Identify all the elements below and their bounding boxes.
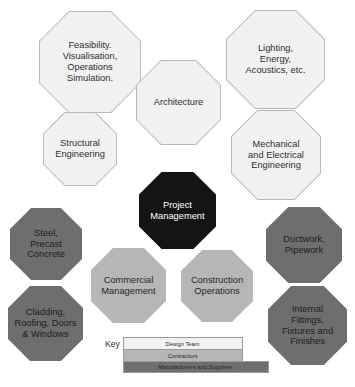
- key-legend: Key Design Team Contractors Manufacturer…: [105, 337, 269, 373]
- octagon-mechanical-electrical[interactable]: Mechanical and Electrical Engineering: [232, 111, 320, 199]
- key-row-design-team[interactable]: Design Team: [123, 337, 243, 349]
- key-row-design-team-label: Design Team: [166, 341, 200, 347]
- octagon-project-management-label: Project Management: [146, 200, 209, 222]
- octagon-commercial-management[interactable]: Commercial Management: [91, 248, 166, 323]
- octagon-ductwork-pipework[interactable]: Ductwork, Pipework: [266, 207, 342, 283]
- octagon-commercial-management-label: Commercial Management: [97, 275, 160, 297]
- key-rows: Design Team Contractors Manufacturers an…: [123, 337, 269, 373]
- octagon-cladding-roofing-doors-windows-label: Cladding, Roofing, Doors & Windows: [10, 307, 81, 340]
- octagon-ductwork-pipework-label: Ductwork, Pipework: [279, 234, 329, 256]
- octagon-construction-operations-label: Construction Operations: [187, 275, 248, 297]
- octagon-internal-fittings-fixtures-finishes-label: Internal Fittings, Fixtures and Finishes: [277, 304, 338, 348]
- octagon-project-management[interactable]: Project Management: [139, 172, 216, 249]
- octagon-architecture-label: Architecture: [149, 97, 209, 108]
- octagon-cladding-roofing-doors-windows[interactable]: Cladding, Roofing, Doors & Windows: [8, 286, 83, 361]
- key-row-contractors-label: Contractors: [168, 353, 198, 359]
- octagon-internal-fittings-fixtures-finishes[interactable]: Internal Fittings, Fixtures and Finishes: [268, 286, 347, 365]
- octagon-architecture[interactable]: Architecture: [137, 61, 220, 144]
- octagon-construction-operations[interactable]: Construction Operations: [181, 250, 253, 322]
- octagon-feasibility[interactable]: Feasibility. Visualisation, Operations S…: [40, 12, 140, 112]
- project-management-diagram: Feasibility. Visualisation, Operations S…: [0, 0, 355, 387]
- octagon-structural-engineering[interactable]: Structural Engineering: [44, 113, 116, 185]
- key-row-contractors[interactable]: Contractors: [123, 349, 243, 361]
- octagon-structural-engineering-label: Structural Engineering: [51, 138, 109, 160]
- octagon-mechanical-electrical-label: Mechanical and Electrical Engineering: [243, 139, 309, 172]
- octagon-lighting[interactable]: Lighting, Energy, Acoustics, etc.: [227, 11, 324, 108]
- key-title: Key: [105, 337, 120, 349]
- octagon-feasibility-label: Feasibility. Visualisation, Operations S…: [57, 40, 124, 84]
- key-row-manufacturers-suppliers[interactable]: Manufacturers and Suppliers: [123, 361, 269, 373]
- octagon-steel-precast-concrete-label: Steel, Precast Concrete: [23, 228, 69, 261]
- octagon-steel-precast-concrete[interactable]: Steel, Precast Concrete: [10, 208, 82, 280]
- octagon-lighting-label: Lighting, Energy, Acoustics, etc.: [240, 43, 312, 76]
- key-row-manufacturers-suppliers-label: Manufacturers and Suppliers: [159, 364, 233, 370]
